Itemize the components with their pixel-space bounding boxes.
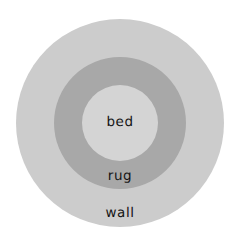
rug-region-label: rug	[108, 170, 132, 184]
wall-region-label: wall	[105, 207, 134, 221]
bed-region-label: bed	[106, 116, 133, 130]
nested-circles-diagram: bed rug wall	[0, 0, 238, 246]
